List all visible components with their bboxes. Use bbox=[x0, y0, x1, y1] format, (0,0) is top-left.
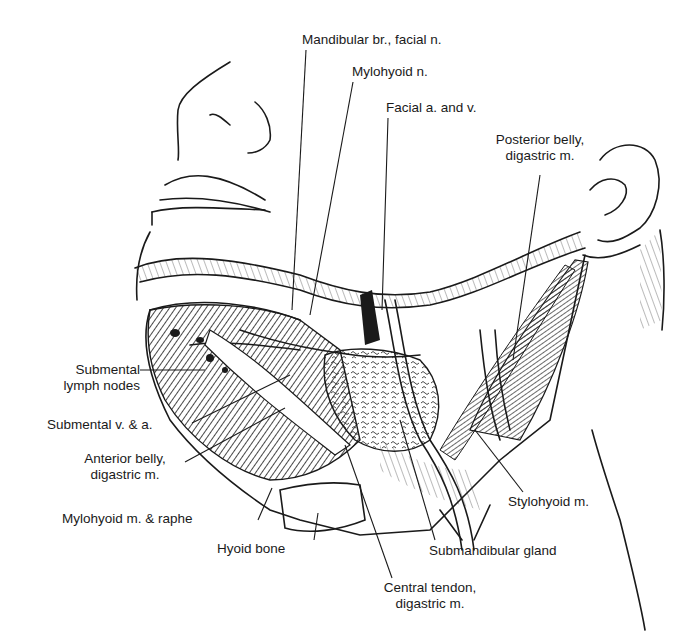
label-posterior-belly-digastric: Posterior belly, digastric m. bbox=[465, 132, 615, 164]
anatomical-illustration bbox=[0, 0, 694, 642]
leader-mylohyoid-n bbox=[310, 82, 353, 315]
nostril bbox=[248, 102, 270, 153]
label-mylohyoid-nerve: Mylohyoid n. bbox=[352, 64, 428, 80]
label-submental-lymph-nodes: Submental lymph nodes bbox=[20, 362, 140, 394]
label-anterior-belly-digastric: Anterior belly, digastric m. bbox=[60, 451, 190, 483]
leader-mandibular-br bbox=[292, 50, 306, 310]
hyoid-bone-outline bbox=[280, 483, 365, 531]
label-submandibular-gland: Submandibular gland bbox=[429, 543, 557, 559]
label-facial-artery-vein: Facial a. and v. bbox=[386, 100, 477, 116]
label-mandibular-branch-facial-nerve: Mandibular br., facial n. bbox=[302, 32, 442, 48]
label-mylohyoid-muscle-raphe: Mylohyoid m. & raphe bbox=[62, 511, 193, 527]
label-stylohyoid-muscle: Stylohyoid m. bbox=[508, 494, 589, 510]
leader-facial-av bbox=[382, 118, 388, 310]
label-hyoid-bone: Hyoid bone bbox=[217, 541, 285, 557]
nose-outline bbox=[177, 62, 230, 160]
upper-lip bbox=[165, 176, 265, 200]
leader-hyoid-bone bbox=[314, 513, 318, 540]
label-line: digastric m. bbox=[90, 467, 159, 482]
label-line: Submental bbox=[75, 362, 140, 377]
mandible-band bbox=[135, 232, 585, 308]
label-line: Posterior belly, bbox=[496, 132, 584, 147]
label-central-tendon-digastric: Central tendon, digastric m. bbox=[365, 580, 495, 612]
label-line: digastric m. bbox=[505, 148, 574, 163]
label-line: Anterior belly, bbox=[84, 451, 166, 466]
label-line: lymph nodes bbox=[63, 378, 140, 393]
label-line: Central tendon, bbox=[384, 580, 476, 595]
label-submental-vein-artery: Submental v. & a. bbox=[47, 417, 153, 433]
lower-lip bbox=[152, 208, 265, 212]
label-line: digastric m. bbox=[395, 596, 464, 611]
